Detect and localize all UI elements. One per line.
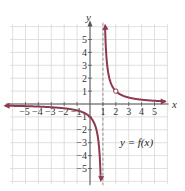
x-axis-label: x xyxy=(171,98,177,110)
x-tick-label: 5 xyxy=(152,106,157,117)
x-tick-label: 2 xyxy=(113,106,118,117)
y-tick-label: −2 xyxy=(76,124,87,135)
y-tick-label: 2 xyxy=(82,73,87,84)
y-tick-label: 4 xyxy=(82,47,87,58)
x-tick-label: 1 xyxy=(100,106,105,117)
y-tick-label: −3 xyxy=(76,137,87,148)
x-tick-label: −5 xyxy=(19,106,30,117)
y-tick-label: 3 xyxy=(82,60,87,71)
y-axis-label: y xyxy=(85,11,91,23)
y-tick-label: 5 xyxy=(82,34,87,45)
y-tick-label: 1 xyxy=(82,86,87,97)
y-tick-label: −5 xyxy=(76,163,87,174)
function-graph: −5−4−3−2−112345−5−4−3−2−112345 x y y = f… xyxy=(0,0,185,191)
axes xyxy=(6,20,169,185)
function-label: y = f(x) xyxy=(119,136,153,149)
y-tick-label: −4 xyxy=(76,150,87,161)
x-tick-label: 3 xyxy=(126,106,131,117)
open-circle-hole xyxy=(114,89,118,93)
curve-arrow-right-icon xyxy=(161,98,167,104)
x-tick-label: 4 xyxy=(139,106,144,117)
